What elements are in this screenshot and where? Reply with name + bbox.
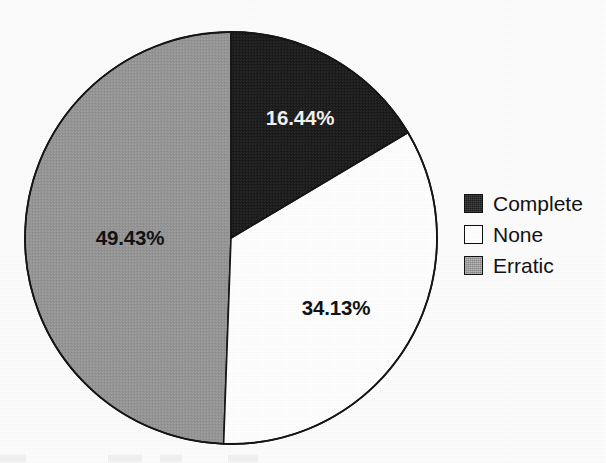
- legend-swatch-complete-icon: [464, 194, 483, 213]
- scan-artifact: [228, 455, 258, 462]
- scan-artifact: [108, 455, 142, 462]
- chart-page: 16.44% 34.13% 49.43% Complete None Errat…: [0, 0, 606, 463]
- scan-artifact: [0, 455, 26, 462]
- legend-swatch-none-icon: [464, 225, 483, 244]
- legend-swatch-erratic-icon: [464, 256, 483, 275]
- slice-value-none: 34.13%: [302, 296, 370, 319]
- legend-label-erratic: Erratic: [493, 255, 554, 276]
- legend-item-complete[interactable]: Complete: [464, 188, 604, 219]
- legend-label-complete: Complete: [493, 193, 583, 214]
- chart-legend: Complete None Erratic: [464, 188, 604, 281]
- slice-value-erratic: 49.43%: [96, 226, 164, 249]
- legend-item-none[interactable]: None: [464, 219, 604, 250]
- pie-chart-svg: 16.44% 34.13% 49.43%: [0, 0, 470, 463]
- scan-artifact: [160, 455, 182, 462]
- slice-value-complete: 16.44%: [266, 106, 334, 129]
- pie-chart: 16.44% 34.13% 49.43%: [0, 0, 470, 463]
- legend-label-none: None: [493, 224, 543, 245]
- legend-item-erratic[interactable]: Erratic: [464, 250, 604, 281]
